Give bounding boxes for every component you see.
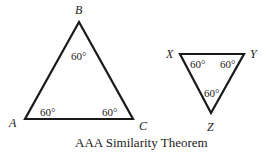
vertex-label-z: Z: [207, 120, 214, 134]
angle-label-y: 60°: [220, 58, 235, 70]
triangle-abc-outline: [25, 22, 133, 119]
angle-label-a: 60°: [40, 106, 55, 118]
triangle-xyz: X Y Z 60° 60° 60°: [165, 47, 258, 134]
vertex-label-b: B: [75, 3, 83, 17]
angle-label-b: 60°: [71, 50, 86, 62]
angle-label-c: 60°: [102, 106, 117, 118]
vertex-label-a: A: [8, 116, 17, 130]
diagram-caption: AAA Similarity Theorem: [75, 135, 208, 150]
vertex-label-y: Y: [250, 47, 258, 61]
aaa-similarity-diagram: B A C 60° 60° 60° X Y Z 60° 60° 60° AAA …: [0, 0, 268, 153]
triangle-abc: B A C 60° 60° 60°: [8, 3, 148, 133]
vertex-label-c: C: [139, 119, 148, 133]
angle-label-x: 60°: [190, 58, 205, 70]
vertex-label-x: X: [165, 47, 174, 61]
angle-label-z: 60°: [204, 87, 219, 99]
